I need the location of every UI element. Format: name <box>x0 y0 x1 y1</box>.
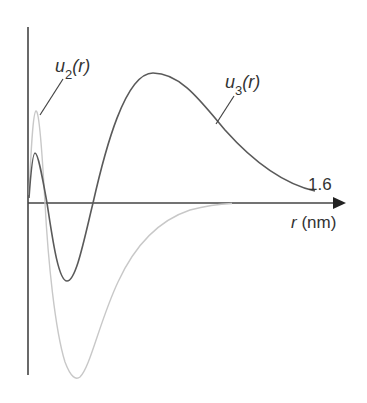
u2-leader-line <box>40 79 63 115</box>
u3-label: u3(r) <box>225 72 260 98</box>
u2-curve <box>29 111 232 378</box>
x-end-tick-label: 1.6 <box>308 175 332 194</box>
u2-label: u2(r) <box>55 56 90 82</box>
chart: u2(r) u3(r) 1.6 r (nm) <box>0 0 367 403</box>
x-axis-label: r (nm) <box>291 213 336 232</box>
u3-leader-line <box>216 96 234 124</box>
u3-curve <box>29 73 315 281</box>
x-axis-arrow-icon <box>333 197 346 209</box>
